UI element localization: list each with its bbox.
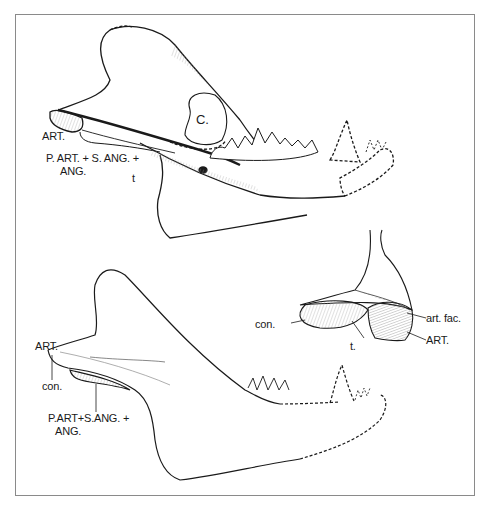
articular-detail [291, 230, 426, 341]
label-art-fac: art. fac. [426, 312, 461, 324]
label-art-detail: ART. [426, 334, 449, 346]
label-part-sang-ang-upper-2: ANG. [60, 165, 86, 177]
label-t-detail: t. [350, 340, 356, 352]
label-coronoid: C. [196, 114, 209, 126]
label-con-lower: con. [42, 380, 62, 392]
label-art-upper: ART. [42, 130, 65, 142]
label-art-lower: ART. [35, 340, 58, 352]
upper-mandible [50, 26, 393, 238]
label-con-detail: con. [255, 318, 275, 330]
label-part-sang-ang-lower-1: P.ART+S.ANG. + [48, 412, 129, 424]
label-part-sang-ang-upper-1: P. ART. + S. ANG. + [46, 152, 139, 164]
label-part-sang-ang-lower-2: ANG. [55, 425, 81, 437]
jaw-drawing [0, 0, 492, 516]
label-t-upper: t [132, 172, 135, 184]
